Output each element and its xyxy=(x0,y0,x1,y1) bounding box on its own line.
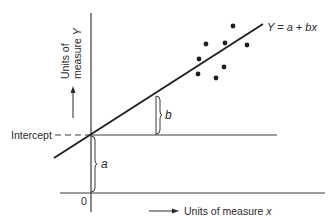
data-point xyxy=(222,65,227,70)
x-axis-label-text: Units of measure xyxy=(184,205,266,217)
data-point xyxy=(214,76,219,81)
data-point xyxy=(197,57,202,62)
x-axis-label: Units of measure x xyxy=(184,205,272,217)
intercept-a-label: a xyxy=(101,157,108,171)
regression-line xyxy=(54,24,263,158)
regression-diagram: a b Y = a + bx Intercept 0 Units of meas… xyxy=(0,0,334,221)
equation-label: Y = a + bx xyxy=(267,21,317,33)
data-point xyxy=(204,42,209,47)
y-direction-arrow-icon xyxy=(71,86,76,93)
data-point xyxy=(196,72,201,77)
y-axis-variable: Y xyxy=(71,27,83,35)
intercept-label: Intercept xyxy=(11,129,52,141)
slope-b-label: b xyxy=(165,108,172,122)
y-axis-label-line2: measure Y xyxy=(71,27,83,79)
scatter-points xyxy=(196,24,250,81)
data-point xyxy=(223,41,228,46)
x-direction-arrow-icon xyxy=(172,209,179,214)
x-axis-variable: x xyxy=(265,205,272,217)
data-point xyxy=(245,43,250,48)
intercept-a-bracket xyxy=(91,136,97,192)
slope-b-bracket xyxy=(156,96,162,134)
data-point xyxy=(231,24,236,29)
y-axis-label-line2-text: measure xyxy=(71,35,83,79)
origin-label: 0 xyxy=(81,195,87,207)
y-axis-label-line1: Units of xyxy=(59,43,71,79)
